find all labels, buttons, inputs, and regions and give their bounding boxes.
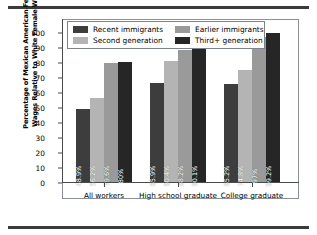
bar[interactable]: 99.2%: [266, 33, 280, 182]
bar[interactable]: 88.2%: [178, 50, 192, 182]
legend-swatch: [175, 37, 190, 44]
bar-group: 65.9%80.4%88.2%90.1%: [150, 32, 206, 182]
bar[interactable]: 97%: [252, 37, 266, 183]
bar-value-label: 97%: [251, 169, 259, 183]
bar[interactable]: 79.6%: [104, 63, 118, 182]
y-axis-tick-label: 60: [5, 89, 45, 98]
bar-value-label: 65.2%: [223, 166, 231, 186]
bar-value-label: 56.2%: [89, 166, 97, 186]
bar-value-label: 90.1%: [191, 166, 199, 186]
legend-label: Second generation: [93, 36, 163, 45]
bar[interactable]: 65.9%: [150, 83, 164, 182]
bar-value-label: 80%: [117, 169, 125, 183]
x-axis-tick-mark: [178, 183, 179, 187]
bar-value-label: 74.8%: [237, 166, 245, 186]
chart-figure: Percentage of Mexican American Female Wa…: [0, 0, 317, 235]
y-axis: 0102030405060708090100: [0, 0, 62, 235]
bar[interactable]: 56.2%: [90, 98, 104, 182]
y-axis-tick-label: 100: [5, 29, 45, 38]
bar[interactable]: 90.1%: [192, 47, 206, 182]
bar-group: 65.2%74.8%97%99.2%: [224, 32, 280, 182]
y-axis-tick-label: 80: [5, 59, 45, 68]
x-axis-category-label: All workers: [84, 191, 124, 200]
y-axis-tick-label: 10: [5, 164, 45, 173]
bar[interactable]: 80.4%: [164, 61, 178, 182]
legend-swatch: [73, 26, 88, 33]
legend-entry[interactable]: Recent immigrants: [73, 25, 163, 34]
legend-swatch: [73, 37, 88, 44]
y-axis-tick-label: 90: [5, 44, 45, 53]
bar[interactable]: 74.8%: [238, 70, 252, 182]
x-axis-category-label: College graduate: [221, 191, 284, 200]
bar[interactable]: 65.2%: [224, 84, 238, 182]
legend-swatch: [175, 26, 190, 33]
y-axis-tick-label: 0: [5, 179, 45, 188]
legend-label: Third+ generation: [195, 36, 263, 45]
y-axis-tick-label: 70: [5, 74, 45, 83]
bar-group: 48.9%56.2%79.6%80%: [76, 32, 132, 182]
legend-label: Recent immigrants: [93, 25, 163, 34]
y-axis-tick-label: 40: [5, 119, 45, 128]
legend-entry[interactable]: Third+ generation: [175, 36, 263, 45]
bar-value-label: 65.9%: [149, 166, 157, 186]
chart-legend: Recent immigrantsEarlier immigrantsSecon…: [67, 21, 265, 49]
legend-entry[interactable]: Second generation: [73, 36, 163, 45]
bar[interactable]: 48.9%: [76, 109, 90, 182]
bar[interactable]: 80%: [118, 62, 132, 182]
x-axis-tick-mark: [104, 183, 105, 187]
bar-value-label: 80.4%: [163, 166, 171, 186]
legend-entry[interactable]: Earlier immigrants: [175, 25, 263, 34]
legend-label: Earlier immigrants: [195, 25, 263, 34]
y-axis-tick-label: 30: [5, 134, 45, 143]
y-axis-line: [62, 19, 63, 183]
bar-value-label: 48.9%: [75, 166, 83, 186]
x-axis-category-label: High school graduate: [139, 191, 217, 200]
x-axis-tick-mark: [252, 183, 253, 187]
y-axis-tick-label: 20: [5, 149, 45, 158]
y-axis-tick-label: 50: [5, 104, 45, 113]
bar-value-label: 99.2%: [265, 166, 273, 186]
